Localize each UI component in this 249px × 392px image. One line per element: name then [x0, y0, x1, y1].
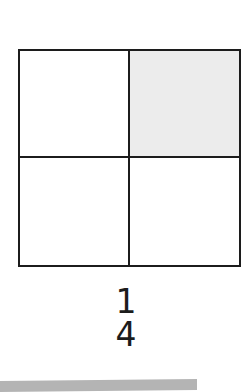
grid-cell-top-left: [20, 51, 130, 158]
grid-cell-top-right-shaded: [130, 51, 240, 158]
bottom-gray-bar: [0, 379, 197, 392]
fraction-denominator: 4: [98, 318, 154, 351]
grid-cell-bottom-right: [130, 158, 240, 265]
grid-cell-bottom-left: [20, 158, 130, 265]
fraction-label: 1 4: [98, 285, 154, 351]
fraction-numerator: 1: [98, 285, 154, 318]
worksheet-page: 1 4: [0, 0, 249, 392]
fraction-grid: [18, 49, 241, 267]
